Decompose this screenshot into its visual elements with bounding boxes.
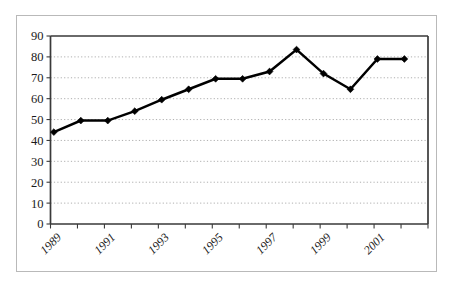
- y-tick-label: 40: [31, 134, 44, 148]
- y-tick-label: 10: [31, 197, 44, 211]
- y-tick-label: 30: [31, 155, 44, 169]
- y-tick-label: 90: [31, 29, 44, 43]
- y-tick-label: 0: [37, 217, 43, 231]
- x-tick-label: 1999: [307, 230, 334, 257]
- data-point-marker: [401, 56, 408, 63]
- y-tick-label: 20: [31, 176, 44, 190]
- chart-figure: 0102030405060708090 19891991199319951997…: [0, 0, 452, 297]
- y-tick-label: 80: [31, 50, 44, 64]
- data-point-marker: [185, 86, 192, 93]
- data-point-marker: [77, 117, 84, 124]
- x-tick-label: 1993: [145, 230, 172, 257]
- x-tick-label: 1995: [199, 230, 226, 257]
- x-tick-label: 2001: [361, 230, 388, 257]
- data-point-marker: [131, 108, 138, 115]
- data-series-markers: [50, 46, 407, 135]
- x-tick-label: 1991: [91, 230, 118, 257]
- x-axis-tick-labels: 1989199119931995199719992001: [37, 230, 387, 258]
- y-tick-label: 60: [31, 92, 44, 106]
- data-point-marker: [104, 117, 111, 124]
- line-chart: 0102030405060708090 19891991199319951997…: [0, 0, 452, 297]
- y-tick-label: 70: [31, 71, 44, 85]
- x-tick-label: 1989: [37, 230, 64, 257]
- data-point-marker: [239, 75, 246, 82]
- y-axis-tick-labels: 0102030405060708090: [31, 29, 44, 231]
- data-point-marker: [158, 96, 165, 103]
- x-tick-label: 1997: [253, 230, 281, 258]
- data-point-marker: [212, 75, 219, 82]
- data-point-marker: [50, 129, 57, 136]
- y-tick-label: 50: [31, 113, 44, 127]
